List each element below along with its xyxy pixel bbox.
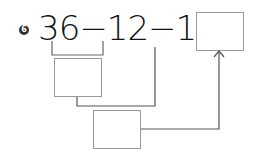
step2-to-answer-line xyxy=(141,52,219,129)
step1-to-step2-line xyxy=(77,47,155,106)
bracket-line xyxy=(52,41,103,55)
connector-lines xyxy=(0,0,253,167)
